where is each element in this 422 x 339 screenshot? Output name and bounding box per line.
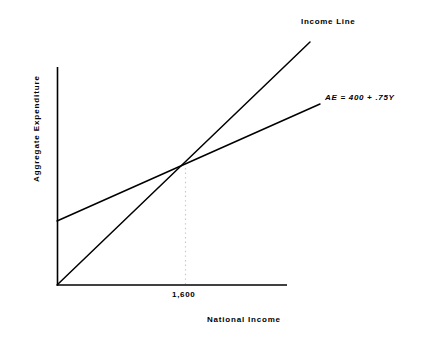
income-line-series [57,42,310,285]
aggregate-expenditure-figure: Income Line AE = 400 + .75Y Aggregate Ex… [0,0,422,339]
ae-equation-label: AE = 400 + .75Y [325,94,395,102]
income-line-label: Income Line [301,18,355,26]
y-axis-title: Aggregate Expenditure [33,75,41,182]
aggregate-expenditure-line-series [57,104,320,221]
chart-plot-area [0,0,422,339]
x-axis-tick-label-equilibrium: 1,600 [172,291,196,299]
x-axis-title: National Income [207,316,281,324]
